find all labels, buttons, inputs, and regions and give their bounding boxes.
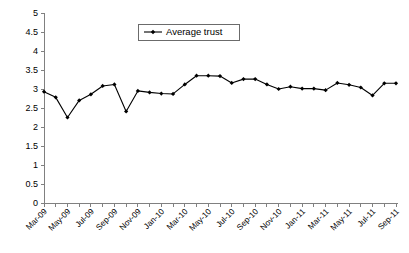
data-point-marker (312, 87, 316, 91)
y-tick-label: 4.5 (25, 27, 38, 37)
y-tick-label: 1.5 (25, 141, 38, 151)
x-tick-label: May-09 (47, 207, 73, 233)
line-chart: 00.511.522.533.544.55 Mar-09May-09Jul-09… (0, 0, 409, 253)
data-point-marker (394, 81, 398, 85)
y-tick-label: 2 (33, 122, 38, 132)
x-tick-label: Jul-09 (74, 207, 96, 229)
data-point-marker (42, 90, 46, 94)
x-tick-label: Sep-11 (376, 207, 401, 232)
x-tick-label: Mar-09 (24, 207, 49, 232)
legend-label-average-trust: Average trust (166, 26, 223, 37)
data-point-marker (265, 82, 269, 86)
y-tick-label: 0.5 (25, 179, 38, 189)
data-point-marker (159, 91, 163, 95)
y-tick-label: 0 (33, 198, 38, 208)
data-point-marker (300, 87, 304, 91)
data-point-marker (206, 74, 210, 78)
x-axis: Mar-09May-09Jul-09Sep-09Nov-09Jan-10Mar-… (24, 203, 401, 233)
x-tick-label: Jan-10 (142, 207, 166, 231)
x-tick-label: Jul-10 (215, 207, 237, 229)
x-tick-label: Jul-11 (356, 207, 378, 229)
x-tick-label: Jan-11 (283, 207, 307, 231)
data-point-marker (112, 82, 116, 86)
x-tick-label: Nov-09 (118, 207, 143, 232)
y-tick-label: 2.5 (25, 103, 38, 113)
y-tick-label: 4 (33, 46, 38, 56)
y-tick-label: 3 (33, 84, 38, 94)
x-tick-label: Sep-10 (235, 207, 260, 232)
data-series-average-trust (42, 74, 398, 120)
x-tick-label: Sep-09 (94, 207, 119, 232)
data-point-marker (253, 77, 257, 81)
y-tick-label: 5 (33, 8, 38, 18)
data-point-marker (277, 87, 281, 91)
x-tick-label: Mar-11 (306, 207, 331, 232)
x-tick-label: Nov-10 (259, 207, 284, 232)
data-point-marker (347, 83, 351, 87)
x-tick-label: May-10 (188, 207, 214, 233)
series-line-average-trust (44, 76, 396, 118)
x-tick-label: Mar-10 (165, 207, 190, 232)
y-axis: 00.511.522.533.544.55 (25, 8, 44, 208)
x-tick-label: May-11 (329, 207, 355, 233)
y-tick-label: 1 (33, 160, 38, 170)
chart-container: 00.511.522.533.544.55 Mar-09May-09Jul-09… (0, 0, 409, 253)
data-point-marker (288, 85, 292, 89)
y-tick-label: 3.5 (25, 65, 38, 75)
chart-legend: Average trust (138, 24, 239, 40)
data-point-marker (241, 77, 245, 81)
data-point-marker (148, 90, 152, 94)
